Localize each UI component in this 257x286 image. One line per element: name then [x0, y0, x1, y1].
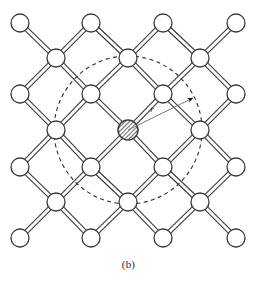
- radius-label: r: [150, 104, 154, 114]
- atom-circle-icon: [191, 121, 209, 139]
- atom-circle-icon: [47, 121, 65, 139]
- atom-circle-icon: [47, 193, 65, 211]
- atom-circle-icon: [191, 49, 209, 67]
- lattice-diagram: r: [0, 0, 257, 262]
- atom-circle-icon: [47, 49, 65, 67]
- atom-circle-icon: [191, 193, 209, 211]
- atom-circle-icon: [119, 193, 137, 211]
- crystal-lattice-figure: r (b): [0, 0, 257, 286]
- atom-circle-icon: [154, 14, 172, 32]
- atom-circle-icon: [227, 229, 245, 247]
- atom-circle-icon: [11, 85, 29, 103]
- atom-circle-icon: [227, 14, 245, 32]
- atom-circle-icon: [11, 14, 29, 32]
- atom-circle-icon: [154, 229, 172, 247]
- atom-circle-icon: [119, 49, 137, 67]
- atom-circle-icon: [82, 229, 100, 247]
- atom-circle-icon: [227, 158, 245, 176]
- atom-circle-icon: [154, 158, 172, 176]
- atom-circle-icon: [154, 85, 172, 103]
- atom-circle-icon: [82, 85, 100, 103]
- atom-circle-icon: [11, 158, 29, 176]
- atom-circle-icon: [82, 14, 100, 32]
- atom-circle-icon: [82, 158, 100, 176]
- atom-circle-icon: [227, 85, 245, 103]
- atom-circle-icon: [11, 229, 29, 247]
- figure-caption: (b): [0, 258, 257, 270]
